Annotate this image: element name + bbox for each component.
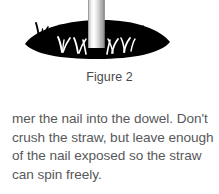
figure-caption: Figure 2 xyxy=(0,70,219,85)
body-text-line: can spin freely. xyxy=(12,166,212,185)
figure-illustration xyxy=(0,0,219,66)
body-text-block: mer the nail into the dowel. Don't crush… xyxy=(12,110,212,184)
body-text-line: of the nail exposed so the straw xyxy=(12,147,212,166)
straw-cylinder-shape xyxy=(88,0,105,48)
figure-illustration-svg xyxy=(0,0,219,66)
body-text-line: mer the nail into the dowel. Don't xyxy=(12,110,212,129)
page-canvas: Figure 2 mer the nail into the dowel. Do… xyxy=(0,0,219,194)
body-text-line: crush the straw, but leave enough xyxy=(12,129,212,148)
